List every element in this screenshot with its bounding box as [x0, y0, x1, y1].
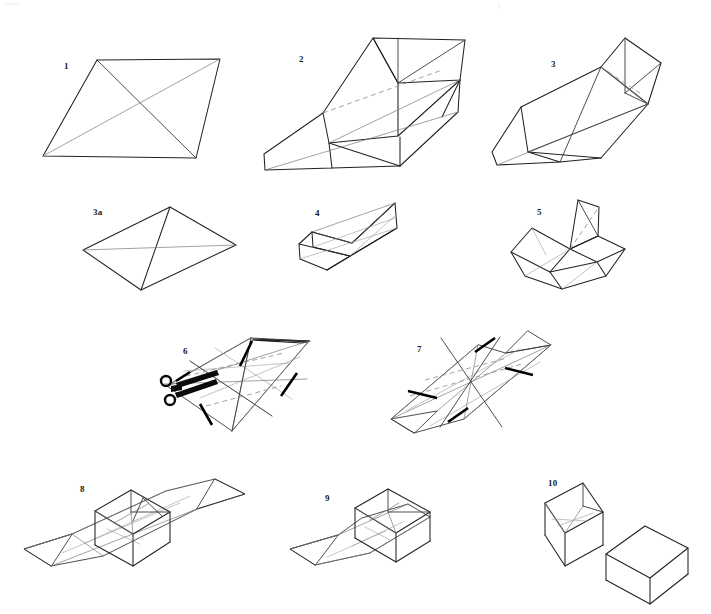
- figure-3a-shape: [83, 207, 236, 290]
- figure-9-shape: [290, 489, 430, 565]
- figure-label-8: 8: [80, 485, 85, 494]
- figure-label-10: 10: [548, 479, 557, 488]
- figure-label-5: 5: [537, 208, 542, 217]
- diagram-page: 1 2 3 3a 4 5 6 7 8 9 10: [0, 0, 711, 614]
- figure-10-shape: [545, 483, 688, 604]
- figure-3-shape: [492, 38, 661, 165]
- figure-label-9: 9: [325, 494, 330, 503]
- figure-label-3a: 3a: [93, 208, 102, 217]
- scan-artifacts: [4, 3, 500, 9]
- figure-label-4: 4: [315, 209, 320, 218]
- figure-label-2: 2: [299, 55, 304, 64]
- figure-5-shape: [511, 200, 625, 289]
- figure-2-shape: [264, 38, 465, 170]
- figure-8-shape: [24, 479, 245, 566]
- figure-label-7: 7: [417, 345, 422, 354]
- figure-label-6: 6: [183, 347, 188, 356]
- figure-1-shape: [43, 59, 220, 158]
- figure-label-3: 3: [551, 60, 556, 69]
- figure-4-shape: [299, 203, 397, 270]
- figure-7-shape: [391, 331, 551, 433]
- figure-label-1: 1: [64, 62, 69, 71]
- paper-folding-diagram: [0, 0, 711, 614]
